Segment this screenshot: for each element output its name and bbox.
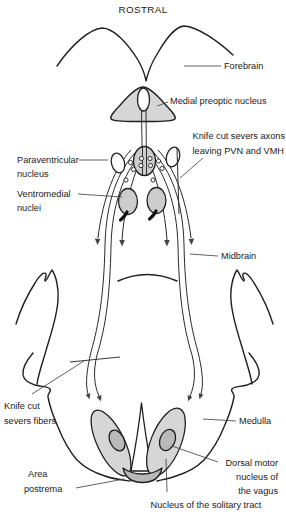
ventromedial-nuclei-shape [119, 188, 167, 221]
label-knife-cut-axons-line2: leaving PVN and VMH [193, 146, 284, 156]
label-knife-cut-axons-line1: Knife cut severs axons [193, 131, 286, 141]
arrowhead-icon [189, 238, 195, 245]
lateral-flap-right [231, 270, 273, 384]
label-medial-preoptic-nucleus: Medial preoptic nucleus [170, 96, 267, 106]
neuron-bead [160, 166, 164, 170]
arrowhead-icon [119, 240, 125, 247]
neuron-bead [128, 160, 132, 164]
leader-midbrain [190, 254, 218, 256]
paraventricular-nucleus-shape [109, 146, 182, 182]
label-paraventricular-line1: Paraventricular [17, 155, 79, 165]
leader-medulla [203, 419, 236, 421]
label-midbrain: Midbrain [221, 251, 256, 261]
preoptic-ventricle-oval [138, 88, 150, 111]
diagram-title: ROSTRAL [118, 4, 167, 15]
brain-pathway-diagram: ROSTRAL Forebrain Medial preoptic nucleu… [0, 0, 286, 514]
label-area-postrema-line2: postrema [24, 484, 63, 494]
neuron-bead [156, 159, 160, 163]
label-forebrain: Forebrain [224, 61, 263, 71]
knife-cut-line-lower [70, 357, 120, 362]
label-dorsal-motor-line3: the vagus [238, 486, 278, 496]
neuron-bead [139, 163, 143, 167]
neuron-bead [148, 156, 152, 160]
arrowhead-icon [86, 393, 91, 399]
midbrain-arc [118, 275, 177, 282]
arrowhead-icon [188, 395, 193, 401]
axon-fiber-tracts [86, 150, 204, 401]
leader-dorsal-motor [172, 446, 218, 462]
label-nucleus-solitary-tract: Nucleus of the solitary tract [151, 500, 262, 510]
lateral-oval-left [109, 152, 127, 175]
forebrain-outline [57, 26, 233, 81]
label-knife-cut-fibers-line2: severs fibers [4, 416, 56, 426]
leader-knife-cut-axons [180, 158, 203, 178]
neuron-bead [131, 167, 135, 171]
neuron-bead [148, 163, 152, 167]
lateral-oval-right [164, 146, 182, 169]
label-dorsal-motor-line2: nucleus of [236, 472, 278, 482]
label-area-postrema-line1: Area [28, 469, 48, 479]
neuron-bead [124, 178, 128, 182]
arrowhead-icon [164, 240, 170, 247]
label-dorsal-motor-line1: Dorsal motor [225, 458, 278, 468]
diagram-svg: ROSTRAL Forebrain Medial preoptic nucleu… [0, 0, 286, 514]
neuron-bead [139, 156, 143, 160]
label-ventromedial-line1: Ventromedial [17, 189, 71, 199]
pvn-oval [134, 147, 156, 176]
label-medulla: Medulla [239, 416, 272, 426]
vmh-oval-left [119, 189, 138, 215]
label-paraventricular-line2: nucleus [17, 169, 49, 179]
neuron-bead [151, 178, 155, 182]
leader-area-postrema [76, 479, 124, 488]
medulla-nuclei [83, 403, 193, 483]
leader-ventromedial [78, 194, 122, 197]
label-leader-lines [32, 66, 236, 492]
arrowhead-icon [199, 393, 204, 399]
label-knife-cut-fibers-line1: Knife cut [4, 401, 40, 411]
arrowhead-icon [95, 238, 101, 245]
leader-knife-cut-fibers [32, 361, 84, 394]
label-ventromedial-line2: nuclei [17, 203, 41, 213]
lateral-flap-left [16, 270, 58, 384]
arrowhead-icon [97, 395, 102, 401]
